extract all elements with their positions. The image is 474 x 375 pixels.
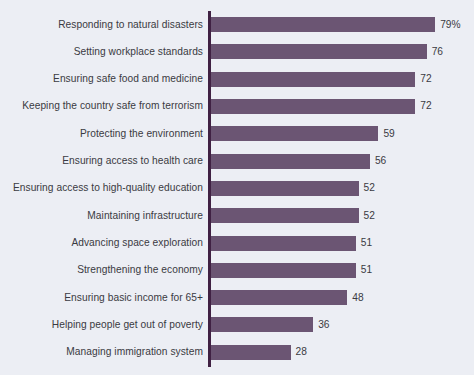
- chart-row: Protecting the environment 59: [0, 120, 474, 147]
- category-label: Ensuring access to high-quality educatio…: [0, 183, 203, 193]
- category-label: Protecting the environment: [0, 129, 203, 139]
- bar-track: 51: [211, 257, 474, 284]
- bar[interactable]: [211, 263, 356, 278]
- bar-value-label: 51: [361, 238, 372, 248]
- bar-value-label: 72: [420, 74, 431, 84]
- bar-value-label: 76: [432, 47, 443, 57]
- chart-row: Strengthening the economy 51: [0, 257, 474, 284]
- chart-row: Ensuring safe food and medicine 72: [0, 66, 474, 93]
- bar-value-label: 48: [352, 293, 363, 303]
- chart-row: Managing immigration system 28: [0, 339, 474, 366]
- category-label: Responding to natural disasters: [0, 20, 203, 30]
- bar-value-label: 36: [318, 320, 329, 330]
- category-label: Setting workplace standards: [0, 47, 203, 57]
- bar-track: 59: [211, 120, 474, 147]
- category-label: Strengthening the economy: [0, 265, 203, 275]
- bar[interactable]: [211, 17, 435, 32]
- bar-value-label: 72: [420, 101, 431, 111]
- bar-value-label: 56: [375, 156, 386, 166]
- bar[interactable]: [211, 345, 291, 360]
- category-label: Maintaining infrastructure: [0, 211, 203, 221]
- bar-track: 52: [211, 202, 474, 229]
- bar-value-label: 28: [296, 347, 307, 357]
- bar[interactable]: [211, 181, 359, 196]
- category-label: Managing immigration system: [0, 347, 203, 357]
- bar-track: 36: [211, 311, 474, 338]
- chart-row: Responding to natural disasters 79%: [0, 11, 474, 38]
- bar[interactable]: [211, 99, 415, 114]
- category-label: Ensuring basic income for 65+: [0, 293, 203, 303]
- bar[interactable]: [211, 208, 359, 223]
- chart-row: Maintaining infrastructure 52: [0, 202, 474, 229]
- category-label: Ensuring access to health care: [0, 156, 203, 166]
- bar-track: 56: [211, 147, 474, 174]
- bar-track: 52: [211, 175, 474, 202]
- bar-track: 51: [211, 229, 474, 256]
- category-label: Advancing space exploration: [0, 238, 203, 248]
- chart-row: Helping people get out of poverty 36: [0, 311, 474, 338]
- bar-chart: Responding to natural disasters 79% Sett…: [0, 0, 474, 375]
- bar[interactable]: [211, 154, 370, 169]
- bar-track: 48: [211, 284, 474, 311]
- chart-row: Advancing space exploration 51: [0, 229, 474, 256]
- bar-value-label: 51: [361, 265, 372, 275]
- bar-track: 76: [211, 38, 474, 65]
- category-label: Ensuring safe food and medicine: [0, 74, 203, 84]
- chart-row: Ensuring access to health care 56: [0, 147, 474, 174]
- chart-row: Ensuring access to high-quality educatio…: [0, 175, 474, 202]
- chart-row: Ensuring basic income for 65+ 48: [0, 284, 474, 311]
- bar[interactable]: [211, 317, 313, 332]
- bar[interactable]: [211, 44, 427, 59]
- chart-row: Setting workplace standards 76: [0, 38, 474, 65]
- category-label: Keeping the country safe from terrorism: [0, 101, 203, 111]
- bar[interactable]: [211, 236, 356, 251]
- bar-value-label: 79%: [440, 20, 460, 30]
- bar-track: 72: [211, 93, 474, 120]
- bar-rows: Responding to natural disasters 79% Sett…: [0, 11, 474, 366]
- category-label: Helping people get out of poverty: [0, 320, 203, 330]
- bar-value-label: 59: [383, 129, 394, 139]
- chart-row: Keeping the country safe from terrorism …: [0, 93, 474, 120]
- bar[interactable]: [211, 126, 378, 141]
- bar-value-label: 52: [364, 183, 375, 193]
- bar-value-label: 52: [364, 211, 375, 221]
- bar[interactable]: [211, 72, 415, 87]
- bar-track: 72: [211, 66, 474, 93]
- bar-track: 79%: [211, 11, 474, 38]
- bar[interactable]: [211, 290, 347, 305]
- bar-track: 28: [211, 339, 474, 366]
